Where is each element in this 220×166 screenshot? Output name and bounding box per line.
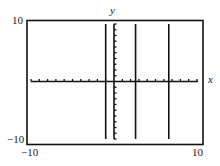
plot-area	[0, 0, 220, 166]
y-axis-label: y	[110, 5, 115, 16]
y-min-label: −10	[7, 134, 24, 145]
viewing-window-frame	[27, 21, 203, 145]
x-axis-label: x	[208, 74, 213, 85]
y-max-label: 10	[12, 15, 23, 26]
x-max-label: 10	[192, 147, 203, 158]
x-min-label: −10	[21, 147, 38, 158]
